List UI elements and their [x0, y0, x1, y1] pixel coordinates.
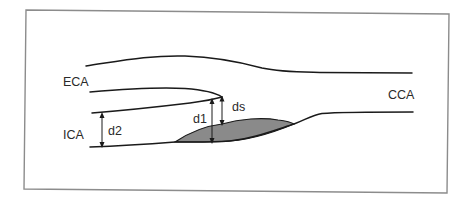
- eca-lower-wall: [90, 88, 222, 97]
- ds-label: ds: [232, 100, 245, 114]
- eca-label: ECA: [63, 75, 89, 89]
- d2-label: d2: [108, 124, 122, 138]
- d1-label: d1: [193, 112, 207, 126]
- ica-label: ICA: [63, 128, 85, 142]
- ica-upper-wall: [92, 97, 222, 113]
- cca-label: CCA: [388, 88, 415, 102]
- carotid-stenosis-diagram: ECA ICA CCA d2 d1 ds: [0, 0, 460, 202]
- eca-cca-upper-wall: [86, 56, 412, 73]
